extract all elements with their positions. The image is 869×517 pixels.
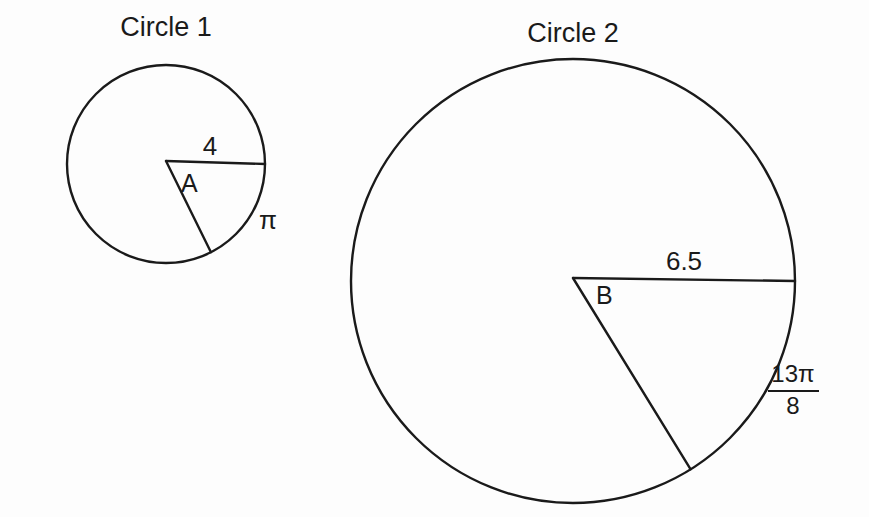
circle-2-group: Circle 2 6.5 B 13π 8 bbox=[351, 18, 819, 503]
circle-2-arc-length-fraction: 13π 8 bbox=[768, 360, 819, 419]
circle-2-angle-label: B bbox=[596, 281, 613, 309]
circle-1-radius-label: 4 bbox=[203, 131, 217, 161]
circle-1-arc-length-label: π bbox=[259, 205, 277, 235]
circle-2-title: Circle 2 bbox=[527, 18, 619, 48]
circle-2-radius-angled bbox=[573, 278, 691, 469]
circle-1-group: Circle 1 4 A π bbox=[67, 12, 277, 263]
circle-2-arc-numerator: 13π bbox=[771, 360, 814, 387]
geometry-figure: Circle 1 4 A π Circle 2 6.5 B 13π 8 bbox=[0, 0, 869, 517]
circle-1-title: Circle 1 bbox=[120, 12, 212, 42]
diagram-canvas: Circle 1 4 A π Circle 2 6.5 B 13π 8 bbox=[0, 0, 869, 517]
circle-1-angle-label: A bbox=[181, 169, 198, 197]
circle-2-arc-denominator: 8 bbox=[786, 392, 799, 419]
circle-1-radius-horizontal bbox=[166, 161, 265, 164]
circle-2-radius-label: 6.5 bbox=[666, 246, 702, 276]
